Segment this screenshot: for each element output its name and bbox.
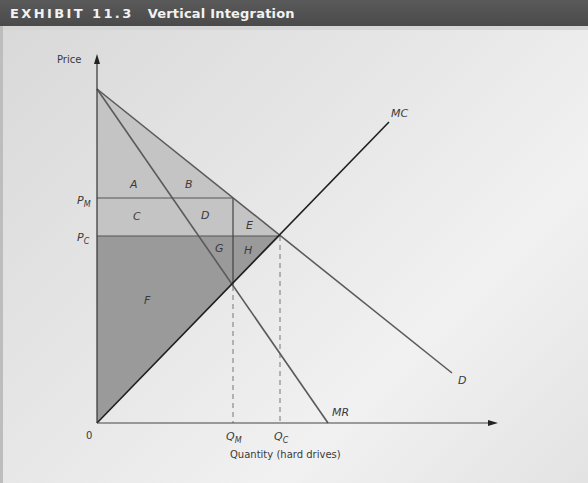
qm-label-main: Q — [226, 430, 235, 443]
region-e-label: E — [246, 219, 253, 232]
region-d-label: D — [201, 209, 209, 222]
pm-label-sub: M — [84, 200, 91, 209]
vertical-integration-chart: Price Quantity (hard drives) 0 PM PC QM … — [0, 0, 588, 483]
region-g-label: G — [215, 242, 224, 255]
pc-label: PC — [77, 231, 90, 246]
pm-label: PM — [77, 194, 91, 209]
qm-label-sub: M — [235, 436, 242, 445]
region-h-label: H — [244, 244, 252, 257]
qc-label-main: Q — [274, 430, 283, 443]
region-a-label: A — [129, 178, 138, 191]
region-f-label: F — [144, 294, 151, 307]
qm-label: QM — [226, 430, 242, 445]
y-axis-arrow-icon — [94, 54, 100, 64]
mr-label: MR — [332, 406, 349, 419]
origin-label: 0 — [86, 430, 92, 441]
region-b-label: B — [185, 178, 193, 191]
region-c-label: C — [133, 210, 141, 223]
caption-cut-off — [0, 474, 588, 483]
qc-label: QC — [274, 430, 289, 445]
qc-label-sub: C — [283, 436, 289, 445]
x-axis-arrow-icon — [488, 420, 498, 426]
quantity-axis-label: Quantity (hard drives) — [230, 449, 341, 460]
demand-label: D — [458, 374, 466, 387]
mc-label: MC — [391, 107, 408, 120]
pc-label-sub: C — [84, 237, 90, 246]
price-axis-label: Price — [57, 54, 81, 65]
